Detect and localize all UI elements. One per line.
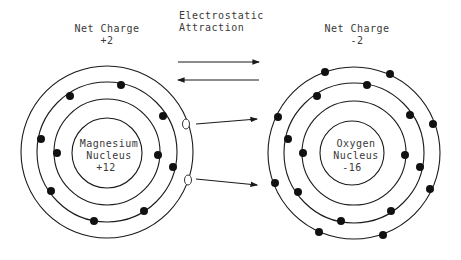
electron [386, 70, 394, 78]
oxygen-atom: Oxygen Nucleus -16 [268, 67, 440, 239]
left-net-charge-value: +2 [100, 35, 113, 46]
mg-nucleus-charge: +12 [96, 162, 116, 173]
arrow-electron-2 [196, 179, 257, 185]
magnesium-atom: Magnesium Nucleus +12 [21, 66, 193, 238]
electron [53, 149, 61, 157]
electron [294, 188, 302, 196]
electron [37, 135, 45, 143]
electron [47, 187, 55, 195]
electron [337, 217, 345, 225]
electron [401, 151, 409, 159]
electron [299, 149, 307, 157]
electron [284, 135, 292, 143]
electron [426, 185, 434, 193]
mg-nucleus-name: Magnesium [80, 138, 139, 149]
electrostatic-label: Electrostatic [179, 10, 264, 21]
o-nucleus-charge: -16 [342, 162, 362, 173]
electron [140, 207, 148, 215]
electron [274, 113, 282, 121]
electron [154, 151, 162, 159]
mg-nucleus-label: Nucleus [86, 150, 132, 161]
electron [416, 163, 424, 171]
electron [159, 112, 167, 120]
left-net-charge-label: Net Charge [74, 23, 139, 34]
electron [117, 81, 125, 89]
lost-electron [185, 175, 192, 185]
electron [429, 120, 437, 128]
electron [406, 111, 414, 119]
electron [387, 207, 395, 215]
electron [321, 68, 329, 76]
o-nucleus-label: Nucleus [333, 150, 379, 161]
electron [363, 81, 371, 89]
right-net-charge-value: -2 [350, 35, 363, 46]
electron [271, 179, 279, 187]
o-nucleus-name: Oxygen [336, 138, 375, 149]
attraction-label: Attraction [179, 22, 244, 33]
ionic-bond-diagram: Net Charge +2 Electrostatic Attraction N… [0, 0, 461, 260]
electron [379, 231, 387, 239]
electron [315, 228, 323, 236]
arrow-electron-1 [196, 119, 257, 124]
electron [66, 92, 74, 100]
electron [313, 92, 321, 100]
lost-electron [183, 119, 190, 129]
electron [90, 217, 98, 225]
right-net-charge-label: Net Charge [324, 23, 389, 34]
electron [169, 163, 177, 171]
